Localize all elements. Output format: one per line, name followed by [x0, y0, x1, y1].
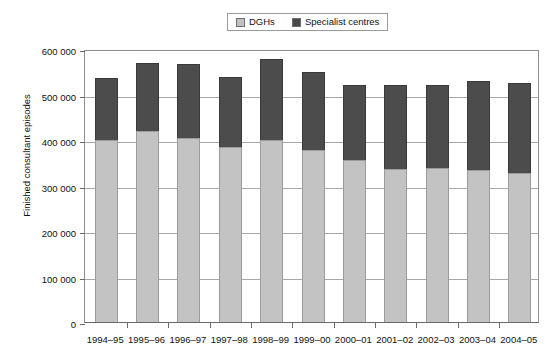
legend-entry-dghs: DGHs [236, 17, 275, 27]
bar-segment-dghs [343, 160, 366, 322]
y-axis-tick [80, 51, 85, 52]
bar-2001-02 [384, 85, 407, 323]
bar-segment-dghs [467, 170, 490, 322]
x-axis-tick [458, 322, 459, 328]
bar-1997-98 [219, 77, 242, 322]
bar-segment-specialist-centres [177, 64, 200, 138]
x-axis-label-1996-97: 1996–97 [169, 334, 206, 345]
x-axis-label-2000-01: 2000–01 [335, 334, 372, 345]
bar-2003-04 [467, 81, 490, 322]
bar-segment-specialist-centres [302, 72, 325, 150]
y-axis-tick [80, 279, 85, 280]
x-axis-label-1999-00: 1999–00 [294, 334, 331, 345]
legend-label-specialist-centres: Specialist centres [305, 17, 379, 27]
y-axis-tick [80, 97, 85, 98]
y-axis-tick-label: 500 000 [42, 91, 76, 102]
x-axis-tick [127, 322, 128, 328]
bar-1999-00 [302, 72, 325, 322]
bar-1998-99 [260, 59, 283, 322]
x-axis-label-1997-98: 1997–98 [211, 334, 248, 345]
y-axis-tick-label: 300 000 [42, 182, 76, 193]
bar-segment-specialist-centres [260, 59, 283, 140]
y-axis-tick [80, 233, 85, 234]
x-axis-tick [210, 322, 211, 328]
bar-2002-03 [426, 85, 449, 323]
bar-segment-specialist-centres [467, 81, 490, 170]
plot-area: 0100 000200 000300 000400 000500 000600 … [84, 50, 539, 323]
chart-legend: DGHs Specialist centres [227, 13, 388, 31]
bar-segment-specialist-centres [426, 85, 449, 169]
x-axis-tick [251, 322, 252, 328]
x-axis-tick [375, 322, 376, 328]
y-axis-tick-label: 100 000 [42, 273, 76, 284]
x-axis-label-2003-04: 2003–04 [459, 334, 496, 345]
x-axis-tick [499, 322, 500, 328]
y-axis-tick [80, 188, 85, 189]
x-axis-tick [334, 322, 335, 328]
bar-segment-specialist-centres [343, 85, 366, 161]
x-axis-label-2004-05: 2004–05 [500, 334, 537, 345]
bar-2004-05 [508, 83, 531, 322]
bar-segment-dghs [136, 131, 159, 322]
x-axis-label-1998-99: 1998–99 [252, 334, 289, 345]
bar-segment-dghs [95, 140, 118, 322]
bar-segment-specialist-centres [95, 78, 118, 140]
bar-segment-specialist-centres [508, 83, 531, 173]
bar-segment-dghs [260, 140, 283, 322]
y-axis-tick-label: 200 000 [42, 228, 76, 239]
bar-segment-dghs [426, 168, 449, 322]
y-axis-tick-label: 0 [71, 319, 76, 330]
x-axis-label-1995-96: 1995–96 [128, 334, 165, 345]
bar-segment-dghs [177, 138, 200, 322]
bar-2000-01 [343, 85, 366, 322]
x-axis-tick [416, 322, 417, 328]
x-axis-label-2002-03: 2002–03 [418, 334, 455, 345]
y-axis-tick [80, 324, 85, 325]
bar-segment-dghs [302, 150, 325, 322]
bar-1996-97 [177, 64, 200, 322]
legend-entry-specialist-centres: Specialist centres [292, 17, 379, 27]
y-axis-title: Finished consultant episodes [21, 56, 32, 256]
x-axis-tick [292, 322, 293, 328]
y-axis-tick [80, 142, 85, 143]
legend-label-dghs: DGHs [249, 17, 275, 27]
bar-segment-specialist-centres [219, 77, 242, 147]
bar-1994-95 [95, 78, 118, 322]
x-axis-label-2001-02: 2001–02 [376, 334, 413, 345]
y-axis-tick-label: 400 000 [42, 137, 76, 148]
bar-segment-dghs [384, 169, 407, 322]
legend-swatch-specialist-centres [292, 18, 301, 27]
bar-segment-dghs [219, 147, 242, 322]
bar-1995-96 [136, 63, 159, 322]
bar-segment-specialist-centres [384, 85, 407, 170]
bar-segment-dghs [508, 173, 531, 322]
x-axis-label-1994-95: 1994–95 [87, 334, 124, 345]
legend-swatch-dghs [236, 18, 245, 27]
bar-segment-specialist-centres [136, 63, 159, 131]
y-axis-tick-label: 600 000 [42, 46, 76, 57]
x-axis-tick [168, 322, 169, 328]
